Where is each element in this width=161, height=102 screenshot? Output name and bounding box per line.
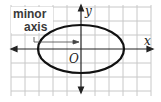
y-axis-label: y [84, 4, 92, 18]
annotation-label-axis: axis [24, 20, 48, 34]
y-axis-up-arrow-icon [79, 5, 84, 11]
y-axis-down-arrow-icon [79, 87, 84, 93]
origin-label: O [69, 52, 79, 66]
x-axis-left-arrow-icon [11, 47, 17, 52]
pointer-arrow-icon [73, 40, 79, 44]
coordinate-plane-diagram: minor axis y x O [0, 0, 161, 102]
x-axis-label: x [144, 34, 151, 48]
x-axis [11, 47, 153, 52]
annotation-label-minor: minor [13, 7, 47, 21]
